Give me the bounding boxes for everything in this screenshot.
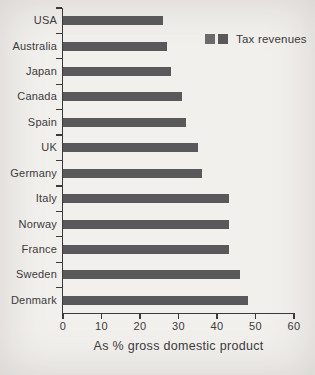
x-tick-label: 60: [280, 320, 308, 332]
legend-label: Tax revenues: [236, 33, 307, 45]
bar-uk: [63, 143, 198, 152]
x-tick-label: 40: [203, 320, 231, 332]
y-axis-tick: [56, 160, 62, 161]
y-axis-tick: [56, 185, 62, 186]
y-axis-tick: [56, 7, 62, 8]
x-tick-label: 50: [242, 320, 270, 332]
y-axis-line: [62, 8, 63, 314]
category-label-spain: Spain: [0, 116, 57, 129]
x-tick-label: 10: [88, 320, 116, 332]
y-axis-tick: [56, 262, 62, 263]
bar-japan: [63, 67, 171, 76]
bar-france: [63, 245, 229, 254]
y-axis-tick: [56, 84, 62, 85]
x-axis-tick: [139, 314, 140, 319]
category-label-uk: UK: [0, 141, 57, 154]
category-label-norway: Norway: [0, 218, 57, 231]
plot-area: USAAustraliaJapanCanadaSpainUKGermanyIta…: [0, 0, 315, 375]
bar-denmark: [63, 296, 248, 305]
category-label-france: France: [0, 243, 57, 256]
category-label-australia: Australia: [0, 40, 57, 53]
category-label-germany: Germany: [0, 167, 57, 180]
y-axis-tick: [56, 287, 62, 288]
x-axis-tick: [178, 314, 179, 319]
bar-australia: [63, 42, 167, 51]
legend-swatch-icon-2: [218, 34, 228, 44]
x-axis-tick: [255, 314, 256, 319]
legend-swatch-icon-1: [205, 34, 215, 44]
category-label-usa: USA: [0, 14, 57, 27]
bar-norway: [63, 220, 229, 229]
x-axis-tick: [62, 314, 63, 319]
bar-sweden: [63, 270, 240, 279]
bar-spain: [63, 118, 186, 127]
category-label-sweden: Sweden: [0, 268, 57, 281]
y-axis-tick: [56, 236, 62, 237]
y-axis-tick: [56, 33, 62, 34]
category-label-japan: Japan: [0, 65, 57, 78]
y-axis-tick: [56, 109, 62, 110]
legend: Tax revenues: [205, 33, 307, 45]
x-tick-label: 20: [126, 320, 154, 332]
x-axis-tick: [101, 314, 102, 319]
bar-canada: [63, 92, 182, 101]
bar-germany: [63, 169, 202, 178]
bar-italy: [63, 194, 229, 203]
chart-page: USAAustraliaJapanCanadaSpainUKGermanyIta…: [0, 0, 315, 375]
y-axis-tick: [56, 211, 62, 212]
x-tick-label: 30: [165, 320, 193, 332]
x-tick-label: 0: [49, 320, 77, 332]
x-axis-tick: [216, 314, 217, 319]
bar-usa: [63, 16, 163, 25]
category-label-denmark: Denmark: [0, 294, 57, 307]
category-label-italy: Italy: [0, 192, 57, 205]
x-axis-tick: [293, 314, 294, 319]
y-axis-tick: [56, 134, 62, 135]
x-axis-title: As % gross domestic product: [63, 339, 294, 353]
y-axis-tick: [56, 58, 62, 59]
category-label-canada: Canada: [0, 90, 57, 103]
